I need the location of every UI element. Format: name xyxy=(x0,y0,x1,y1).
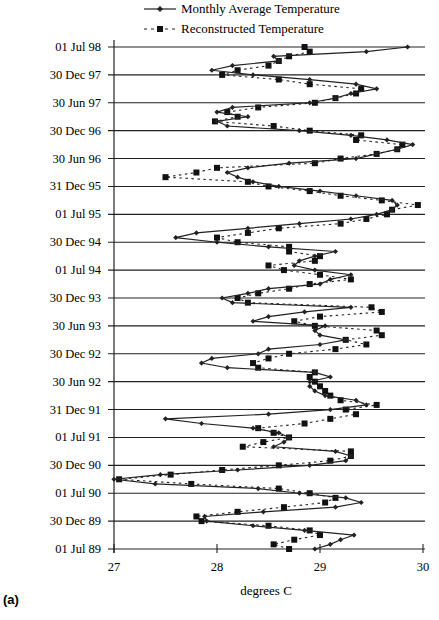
y-tick-label: 01 Jul 95 xyxy=(55,207,101,221)
square-marker xyxy=(327,416,333,422)
square-marker xyxy=(374,328,380,334)
diamond-marker xyxy=(276,430,281,435)
square-marker xyxy=(317,383,323,389)
diamond-marker xyxy=(297,128,302,133)
diamond-marker xyxy=(214,109,219,114)
y-tick-label: 31 Dec 95 xyxy=(50,179,101,193)
diamond-marker xyxy=(266,314,271,319)
square-marker xyxy=(307,128,313,134)
diamond-marker xyxy=(276,184,281,189)
diamond-marker xyxy=(405,44,410,49)
chart-canvas: Monthly Average Temperature Reconstructe… xyxy=(0,0,439,620)
diamond-marker xyxy=(250,523,255,528)
diamond-marker xyxy=(323,323,328,328)
diamond-marker xyxy=(348,216,353,221)
diamond-marker xyxy=(317,342,322,347)
diamond-marker xyxy=(328,542,333,547)
square-marker xyxy=(353,137,359,143)
x-tick-label: 30 xyxy=(417,560,430,574)
square-marker-icon xyxy=(157,26,163,32)
y-tick-label: 30 Dec 90 xyxy=(50,458,101,472)
diamond-marker xyxy=(271,444,276,449)
square-marker xyxy=(199,518,205,524)
y-tick-label: 30 Jun 92 xyxy=(52,375,101,389)
x-tick-label: 27 xyxy=(108,560,121,574)
diamond-marker xyxy=(173,235,178,240)
diamond-marker xyxy=(266,412,271,417)
diamond-marker xyxy=(312,268,317,273)
diamond-marker xyxy=(266,286,271,291)
x-axis-title: degrees C xyxy=(240,583,292,598)
square-marker xyxy=(317,272,323,278)
square-marker xyxy=(363,341,369,347)
diamond-marker xyxy=(338,537,343,542)
diamond-marker xyxy=(364,49,369,54)
diamond-marker xyxy=(297,221,302,226)
diamond-marker xyxy=(225,170,230,175)
square-marker xyxy=(332,495,338,501)
diamond-marker xyxy=(261,509,266,514)
y-tick-label: 30 Dec 92 xyxy=(50,347,101,361)
panel-label: (a) xyxy=(3,592,19,607)
square-marker xyxy=(369,304,375,310)
square-marker xyxy=(260,439,266,445)
square-marker xyxy=(317,532,323,538)
diamond-marker xyxy=(163,416,168,421)
diamond-marker xyxy=(364,402,369,407)
legend-label-reconstructed: Reconstructed Temperature xyxy=(181,21,324,36)
square-marker xyxy=(338,221,344,227)
y-tick-label: 01 Jul 90 xyxy=(55,486,101,500)
diamond-marker xyxy=(333,449,338,454)
square-marker xyxy=(317,314,323,320)
diamond-marker xyxy=(374,86,379,91)
square-marker xyxy=(266,355,272,361)
square-marker xyxy=(353,411,359,417)
diamond-marker xyxy=(256,351,261,356)
diamond-marker xyxy=(250,72,255,77)
square-marker xyxy=(266,262,272,268)
diamond-marker xyxy=(351,532,356,537)
square-marker xyxy=(163,174,169,180)
y-tick-label: 01 Jul 91 xyxy=(55,430,101,444)
square-marker xyxy=(286,53,292,59)
diamond-marker xyxy=(333,249,338,254)
y-tick-label: 30 Dec 89 xyxy=(50,514,101,528)
diamond-marker xyxy=(209,356,214,361)
x-tick-label: 29 xyxy=(314,560,327,574)
y-tick-label: 30 Jun 93 xyxy=(52,319,101,333)
y-tick-label: 30 Dec 96 xyxy=(50,124,101,138)
square-marker xyxy=(193,170,199,176)
y-tick-label: 30 Jun 96 xyxy=(52,152,101,166)
y-tick-label: 30 Dec 97 xyxy=(50,68,101,82)
square-marker xyxy=(307,49,313,55)
square-marker xyxy=(271,541,277,547)
diamond-marker xyxy=(111,477,116,482)
square-marker xyxy=(307,188,313,194)
square-marker xyxy=(307,490,313,496)
diamond-marker xyxy=(235,467,240,472)
diamond-marker xyxy=(384,137,389,142)
square-marker xyxy=(219,467,225,473)
diamond-marker xyxy=(225,123,230,128)
diamond-marker xyxy=(235,175,240,180)
square-marker xyxy=(291,537,297,543)
square-marker xyxy=(302,421,308,427)
x-tick-label: 28 xyxy=(211,560,224,574)
diamond-marker xyxy=(204,519,209,524)
legend-entry-monthly-average: Monthly Average Temperature xyxy=(144,1,340,16)
diamond-marker xyxy=(348,133,353,138)
diamond-marker-icon xyxy=(157,6,163,12)
legend-entry-reconstructed: Reconstructed Temperature xyxy=(144,21,324,36)
diamond-marker xyxy=(359,500,364,505)
y-tick-label: 31 Dec 91 xyxy=(50,403,101,417)
y-tick-label: 30 Jun 97 xyxy=(52,96,101,110)
square-marker xyxy=(271,123,277,129)
diamond-marker xyxy=(250,179,255,184)
diamond-marker xyxy=(250,426,255,431)
diamond-marker xyxy=(328,374,333,379)
square-marker xyxy=(266,63,272,69)
diamond-marker xyxy=(343,495,348,500)
diamond-marker xyxy=(225,365,230,370)
square-marker xyxy=(286,351,292,357)
diamond-marker xyxy=(348,91,353,96)
